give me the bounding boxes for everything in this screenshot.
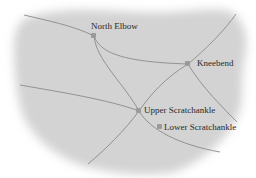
map: North Elbow Kneebend Upper Scratchankle … xyxy=(0,0,256,178)
land-mass xyxy=(14,10,246,175)
marker-lower-scratchankle xyxy=(157,124,162,129)
marker-upper-scratchankle xyxy=(136,108,141,113)
place-label-upper-scratchankle: Upper Scratchankle xyxy=(144,106,215,115)
marker-north-elbow xyxy=(91,33,96,38)
place-label-north-elbow: North Elbow xyxy=(91,22,138,31)
marker-kneebend xyxy=(185,61,190,66)
place-label-kneebend: Kneebend xyxy=(197,59,233,68)
place-label-lower-scratchankle: Lower Scratchankle xyxy=(164,123,236,132)
